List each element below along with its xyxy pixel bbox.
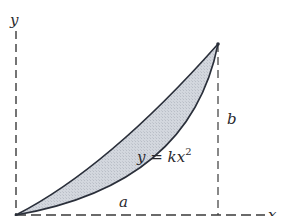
parabola-curve [16, 44, 218, 215]
x-axis-label: x [268, 206, 277, 216]
equation-main: y = kx [136, 148, 186, 166]
upper-curve [16, 44, 218, 215]
shaded-region [16, 44, 218, 215]
width-label-a: a [119, 193, 128, 211]
area-diagram: y x a b y = kx2 [0, 0, 295, 216]
height-label-b: b [227, 110, 237, 128]
equation-exponent: 2 [185, 146, 191, 157]
y-axis-label: y [9, 11, 19, 29]
intersection-point [216, 42, 220, 46]
curve-equation-label: y = kx2 [136, 146, 192, 166]
